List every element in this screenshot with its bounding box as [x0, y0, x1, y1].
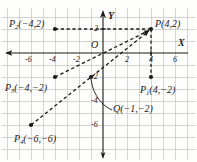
y-axis-label: Y: [108, 11, 114, 21]
point-label-P4: P4(−6,−6): [14, 134, 56, 145]
x-tick-neg2: -2: [73, 56, 80, 64]
point-label-P1: P1(4,−2): [140, 85, 175, 96]
point-dot-P2: [53, 27, 57, 31]
point-dot-P3: [53, 75, 57, 79]
point-label-Q: Q(−1,−2): [113, 104, 153, 115]
point-dot-P: [149, 27, 153, 31]
x-tick-4: 4: [149, 56, 153, 64]
y-tick-neg2: -2: [91, 73, 98, 81]
x-tick-neg4: -4: [49, 56, 56, 64]
point-label-P3: P3(−4,−2): [5, 83, 47, 94]
x-tick-2: 2: [125, 56, 129, 64]
point-label-P4-coords: (−6,−6): [23, 133, 56, 144]
point-label-P2: P2(−4,2): [9, 19, 44, 30]
y-tick-neg6: -6: [91, 121, 98, 129]
point-label-P: P(4,2): [155, 19, 180, 30]
point-dot-P4: [29, 123, 33, 127]
point-label-P1-coords: (4,−2): [149, 84, 175, 95]
y-tick-2: 2: [94, 25, 98, 33]
x-tick-6: 6: [173, 56, 177, 64]
x-axis-label: X: [178, 38, 185, 48]
y-tick-neg4: -4: [91, 97, 98, 105]
point-label-P3-coords: (−4,−2): [14, 82, 47, 93]
point-dot-P1: [149, 75, 153, 79]
x-tick-neg6: -6: [25, 56, 32, 64]
point-label-Q-coords: (−1,−2): [120, 103, 153, 114]
point-label-P-coords: (4,2): [161, 18, 180, 29]
origin-label: O: [91, 40, 98, 50]
coordinate-diagram: Y X O -6 -4 -2 2 4 6 2 -2 -4 -6 P2(−4,2)…: [0, 0, 197, 162]
point-label-P2-coords: (−4,2): [18, 18, 44, 29]
